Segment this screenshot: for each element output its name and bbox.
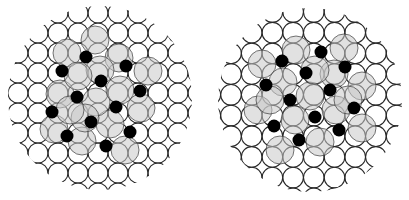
lattice-circle — [168, 143, 188, 163]
lattice-circle — [108, 183, 128, 200]
lattice-circle — [168, 123, 188, 143]
gray-circle — [81, 26, 109, 54]
black-dot — [276, 55, 289, 68]
black-dot — [110, 101, 123, 114]
lattice-circle — [108, 3, 128, 23]
lattice-circle — [221, 85, 242, 106]
lattice-circle — [88, 163, 108, 183]
lattice-circle — [241, 22, 262, 43]
lattice-circle — [8, 143, 28, 163]
lattice-circle — [168, 83, 188, 103]
lattice-circle — [221, 147, 242, 168]
black-dot — [46, 106, 59, 119]
lattice-circle — [366, 22, 387, 43]
lattice-circle — [128, 3, 148, 23]
lattice-circle — [148, 123, 168, 143]
lattice-circle — [304, 22, 325, 43]
lattice-circle — [108, 163, 128, 183]
lattice-circle — [304, 188, 325, 200]
black-dot — [85, 116, 98, 129]
lattice-circle — [200, 85, 221, 106]
lattice-circle — [283, 2, 304, 23]
gray-circle — [348, 114, 376, 142]
black-dot — [61, 130, 74, 143]
lattice-circle — [366, 167, 387, 188]
lattice-circle — [386, 126, 407, 147]
lattice-circle — [324, 2, 345, 23]
lattice-circle — [128, 163, 148, 183]
lattice-circle — [8, 103, 28, 123]
lattice-circle — [108, 23, 128, 43]
lattice-circle — [241, 126, 262, 147]
circle-packing-figure — [0, 0, 409, 200]
black-dot — [268, 120, 281, 133]
lattice-circle — [262, 22, 283, 43]
lattice-circle — [28, 83, 48, 103]
lattice-circle — [8, 43, 28, 63]
lattice-circle — [68, 3, 88, 23]
black-dot — [324, 84, 337, 97]
black-dot — [80, 51, 93, 64]
lattice-circle — [168, 63, 188, 83]
black-dot — [300, 67, 313, 80]
lattice-circle — [304, 2, 325, 23]
black-dot — [71, 91, 84, 104]
lattice-circle — [8, 83, 28, 103]
lattice-circle — [221, 64, 242, 85]
lattice-circle — [28, 63, 48, 83]
lattice-circle — [221, 126, 242, 147]
lattice-circle — [168, 23, 188, 43]
gray-circle — [106, 76, 134, 104]
gray-circle — [111, 136, 139, 164]
lattice-circle — [283, 188, 304, 200]
lattice-circle — [241, 167, 262, 188]
black-dot — [333, 124, 346, 137]
black-dot — [124, 126, 137, 139]
gray-circle — [306, 128, 334, 156]
black-dot — [120, 60, 133, 73]
gray-overlap-circles — [244, 34, 376, 164]
lattice-circle — [168, 43, 188, 63]
lattice-circle — [28, 163, 48, 183]
black-dot — [309, 111, 322, 124]
gray-circle — [266, 136, 294, 164]
black-dot — [348, 102, 361, 115]
lattice-circle — [148, 163, 168, 183]
lattice-circle — [345, 147, 366, 168]
lattice-circle — [262, 2, 283, 23]
gray-circle — [281, 106, 309, 134]
lattice-circle — [88, 183, 108, 200]
black-dot — [100, 140, 113, 153]
lattice-circle — [386, 105, 407, 126]
lattice-circle — [262, 167, 283, 188]
lattice-circle — [28, 143, 48, 163]
gray-circle — [330, 34, 358, 62]
lattice-circle — [148, 23, 168, 43]
right-panel — [200, 2, 407, 200]
lattice-circle — [200, 105, 221, 126]
lattice-circle — [8, 63, 28, 83]
lattice-circle — [221, 105, 242, 126]
lattice-circle — [386, 85, 407, 106]
lattice-circle — [68, 183, 88, 200]
lattice-circle — [28, 43, 48, 63]
lattice-circle — [345, 2, 366, 23]
lattice-circle — [345, 167, 366, 188]
lattice-circle — [283, 167, 304, 188]
black-dot — [134, 85, 147, 98]
lattice-circle — [28, 23, 48, 43]
lattice-circle — [324, 188, 345, 200]
lattice-circle — [324, 167, 345, 188]
lattice-circle — [241, 147, 262, 168]
lattice-circle — [128, 23, 148, 43]
black-dot — [293, 134, 306, 147]
lattice-circle — [148, 143, 168, 163]
lattice-circle — [304, 167, 325, 188]
lattice-circle — [88, 3, 108, 23]
gray-circle — [134, 57, 162, 85]
lattice-circle — [221, 43, 242, 64]
lattice-circle — [366, 147, 387, 168]
gray-circle — [256, 86, 284, 114]
figure-canvas — [0, 0, 409, 200]
lattice-circle — [188, 83, 208, 103]
